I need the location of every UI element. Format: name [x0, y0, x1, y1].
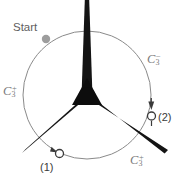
c3-superscript: +: [12, 83, 17, 93]
c3-plus-label-bottom: C3+: [130, 153, 144, 168]
c3-superscript: −: [156, 51, 161, 61]
position-2-marker: [148, 112, 156, 120]
c3-symbol: C: [147, 52, 155, 66]
start-dot: [42, 35, 50, 43]
rotor-blades: [22, 0, 168, 154]
c3-minus-label-right: C3−: [147, 52, 161, 67]
position-1-label: (1): [40, 162, 53, 173]
start-label: Start: [13, 22, 37, 34]
c3-symbol: C: [130, 153, 138, 167]
c3-symbol: C: [3, 84, 11, 98]
position-1-marker: [56, 150, 64, 158]
c3-rotation-figure: Start C3+ C3− C3+ (1) (2): [0, 0, 177, 179]
c3-superscript: +: [139, 152, 144, 162]
c3-plus-label-left: C3+: [3, 84, 17, 99]
position-2-label: (2): [158, 112, 171, 123]
rotor-hub-center: [79, 88, 96, 105]
